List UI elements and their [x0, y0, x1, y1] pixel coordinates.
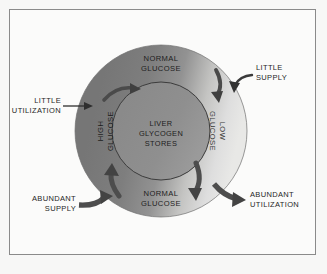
- svg-text:GLUCOSE: GLUCOSE: [141, 199, 181, 208]
- svg-text:GLUCOSE: GLUCOSE: [208, 111, 217, 151]
- svg-text:UTILIZATION: UTILIZATION: [12, 106, 61, 115]
- svg-text:HIGH: HIGH: [96, 121, 105, 142]
- svg-text:SUPPLY: SUPPLY: [256, 73, 287, 82]
- svg-text:STORES: STORES: [145, 139, 177, 148]
- svg-text:NORMAL: NORMAL: [144, 54, 179, 63]
- svg-text:ABUNDANT: ABUNDANT: [32, 194, 76, 203]
- svg-text:SUPPLY: SUPPLY: [45, 204, 76, 213]
- annotation-little-utilization: LITTLE UTILIZATION: [12, 96, 61, 115]
- svg-text:LIVER: LIVER: [149, 119, 172, 128]
- svg-text:LITTLE: LITTLE: [34, 96, 61, 105]
- ring-label-bottom: NORMAL GLUCOSE: [141, 189, 181, 208]
- ring-label-top: NORMAL GLUCOSE: [141, 54, 181, 73]
- svg-text:GLYCOGEN: GLYCOGEN: [139, 129, 183, 138]
- cycle-diagram: NORMAL GLUCOSE HIGH GLUCOSE LOW GLUCOSE …: [0, 0, 327, 274]
- svg-text:ABUNDANT: ABUNDANT: [250, 190, 294, 199]
- svg-text:GLUCOSE: GLUCOSE: [106, 111, 115, 151]
- svg-text:LITTLE: LITTLE: [256, 63, 283, 72]
- svg-text:NORMAL: NORMAL: [144, 189, 179, 198]
- annotation-abundant-supply: ABUNDANT SUPPLY: [32, 194, 76, 213]
- annotation-abundant-utilization: ABUNDANT UTILIZATION: [250, 190, 299, 209]
- abundant-utilization-arrow-icon: [214, 184, 246, 207]
- figure-container: NORMAL GLUCOSE HIGH GLUCOSE LOW GLUCOSE …: [0, 0, 327, 274]
- annotation-little-supply: LITTLE SUPPLY: [256, 63, 287, 82]
- svg-text:GLUCOSE: GLUCOSE: [141, 64, 181, 73]
- svg-text:LOW: LOW: [218, 122, 227, 141]
- svg-text:UTILIZATION: UTILIZATION: [250, 200, 299, 209]
